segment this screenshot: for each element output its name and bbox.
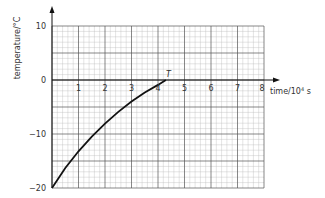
- x-axis-label-unit: s: [304, 87, 311, 96]
- x-axis-arrow-icon: [273, 78, 280, 83]
- y-axis-arrow-icon: [50, 6, 55, 13]
- x-tick-7: 7: [235, 84, 240, 93]
- x-tick-6: 6: [208, 84, 213, 93]
- x-tick-2: 2: [102, 84, 107, 93]
- y-tick-minus20: −20: [29, 184, 46, 193]
- x-tick-1: 1: [76, 84, 81, 93]
- x-tick-3: 3: [129, 84, 134, 93]
- y-axis-label: temperature/°C: [13, 16, 22, 79]
- x-tick-4: 4: [155, 84, 160, 93]
- y-tick-0: 0: [41, 76, 46, 85]
- y-tick-10: 10: [36, 22, 46, 31]
- x-axis-label: time/104 s: [270, 86, 311, 96]
- x-axis-label-main: time/10: [270, 87, 301, 96]
- x-tick-8: 8: [259, 84, 264, 93]
- y-tick-minus10: −10: [29, 130, 46, 139]
- chart: 10 0 −10 −20 1 2 3 4 5 6 7 8 time/104 s …: [0, 0, 325, 198]
- x-tick-5: 5: [182, 84, 187, 93]
